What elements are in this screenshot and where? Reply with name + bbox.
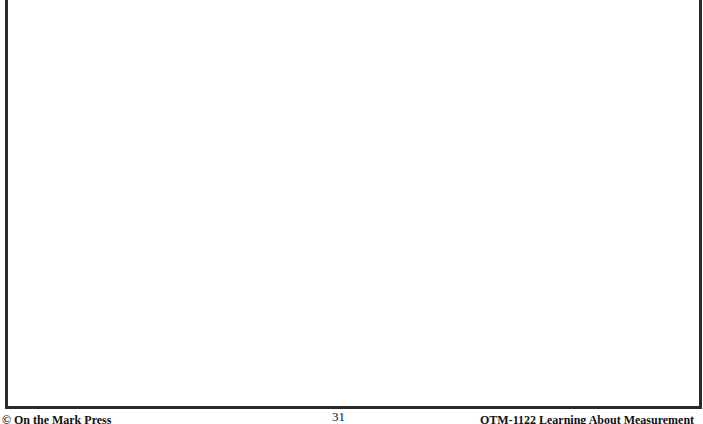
page-footer: © On the Mark Press 31 OTM-1122 Learning… (0, 412, 703, 424)
footer-page-number: 31 (332, 409, 345, 424)
footer-publication-title: OTM-1122 Learning About Measurement (480, 412, 694, 424)
footer-copyright: © On the Mark Press (2, 412, 111, 424)
content-box (5, 0, 702, 409)
